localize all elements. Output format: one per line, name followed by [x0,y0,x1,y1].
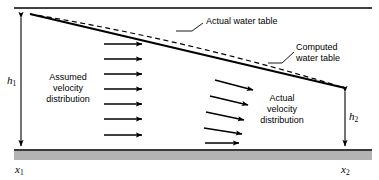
actual-velocity-arrow [206,112,244,120]
actual-velocity-label-line2: velocity [250,104,314,115]
assumed-velocity-label-line2: velocity [36,83,100,94]
computed-water-table-label-line1: Computed [296,42,338,53]
actual-velocity-arrow [204,128,242,134]
assumed-velocity-label-line1: Assumed [36,72,100,83]
actual-velocity-label-line1: Actual [250,93,314,104]
x1-label: x1 [15,163,24,175]
actual-water-table-label: Actual water table [206,16,278,27]
h1-label: h1 [7,74,16,86]
assumed-velocity-arrow-group [104,44,142,135]
h2-symbol: h [349,110,355,122]
computed-water-table-leader [268,52,294,63]
computed-water-table-label-line2: water table [296,53,340,64]
actual-water-table-leader [176,23,203,31]
h1-symbol: h [7,74,13,86]
actual-velocity-arrow [215,80,253,90]
groundwater-flow-diagram: Actual water table Computed water table … [0,0,379,180]
x1-subscript: 1 [20,168,24,177]
x2-label: x2 [341,163,350,175]
h2-label: h2 [349,110,358,122]
assumed-velocity-label-line3: distribution [36,94,100,105]
actual-velocity-arrow [210,96,248,105]
h1-subscript: 1 [13,79,17,88]
actual-velocity-label-line3: distribution [250,115,314,126]
x2-subscript: 2 [346,168,350,177]
h2-subscript: 2 [355,115,359,124]
actual-velocity-arrow-group [204,80,253,143]
aquifer-base-fill [14,150,372,160]
